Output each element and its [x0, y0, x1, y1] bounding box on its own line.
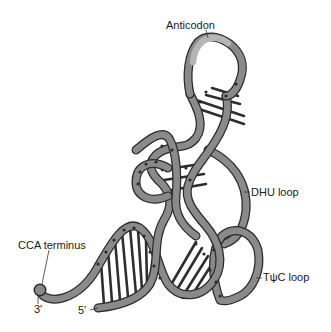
three-prime-knob	[34, 284, 47, 297]
anticodon-label: Anticodon	[166, 20, 215, 31]
tpsic-loop-label: TψC loop	[263, 272, 309, 283]
cca-terminus-label: CCA terminus	[18, 240, 86, 251]
three-prime-label: 3′	[34, 304, 42, 315]
trna-diagram: Anticodon DHU loop TψC loop CCA terminus…	[0, 0, 331, 332]
dhu-loop-label: DHU loop	[251, 187, 299, 198]
anticodon-highlight	[193, 38, 228, 62]
five-prime-label: 5′	[78, 305, 86, 316]
anticodon-loop-strand	[188, 37, 242, 96]
